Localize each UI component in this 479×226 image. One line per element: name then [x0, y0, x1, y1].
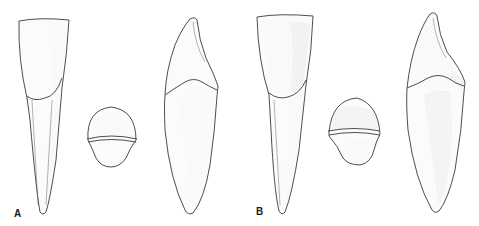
panel-label-b: B — [256, 206, 264, 217]
tooth-b-labial-view — [257, 15, 313, 214]
tooth-illustration-figure: A — [0, 0, 479, 226]
tooth-b-incisal-view — [328, 98, 380, 165]
panel-label-a: A — [14, 208, 22, 219]
tooth-a-proximal-view — [165, 18, 219, 214]
tooth-b-proximal-view — [407, 13, 465, 212]
panel-b: B — [240, 0, 479, 226]
tooth-a-labial-view — [19, 19, 69, 214]
panel-a-drawing — [0, 0, 240, 226]
tooth-a-incisal-view — [87, 107, 137, 167]
panel-a: A — [0, 0, 240, 226]
panel-b-drawing — [240, 0, 479, 226]
